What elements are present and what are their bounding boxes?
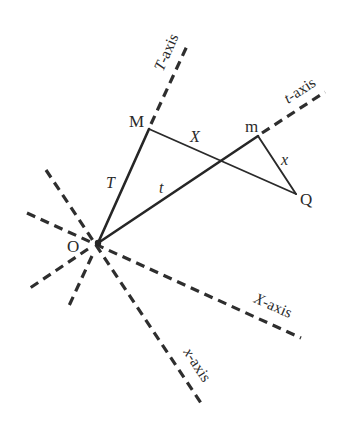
axes-diagram: M m Q O T t X x T-axis t-axis X-axis x-a… — [0, 0, 344, 435]
axis-labels: T-axis t-axis X-axis x-axis — [150, 31, 318, 385]
label-point-O: O — [67, 237, 79, 256]
axes-group — [27, 46, 325, 403]
X-axis-line — [27, 213, 301, 338]
label-segment-t: t — [159, 179, 164, 196]
label-segment-x: x — [280, 151, 288, 168]
T-axis-extension — [68, 256, 92, 308]
label-x-axis: x-axis — [180, 344, 215, 385]
label-X-axis: X-axis — [251, 289, 295, 321]
label-segment-X: X — [189, 128, 201, 145]
x-axis-line — [46, 170, 201, 403]
label-point-m: m — [245, 117, 258, 136]
label-segment-T: T — [106, 174, 116, 191]
label-t-axis: t-axis — [280, 73, 318, 106]
label-point-Q: Q — [300, 190, 312, 209]
origin-dot — [95, 240, 101, 246]
segments-group — [95, 129, 296, 246]
label-point-M: M — [129, 112, 144, 131]
